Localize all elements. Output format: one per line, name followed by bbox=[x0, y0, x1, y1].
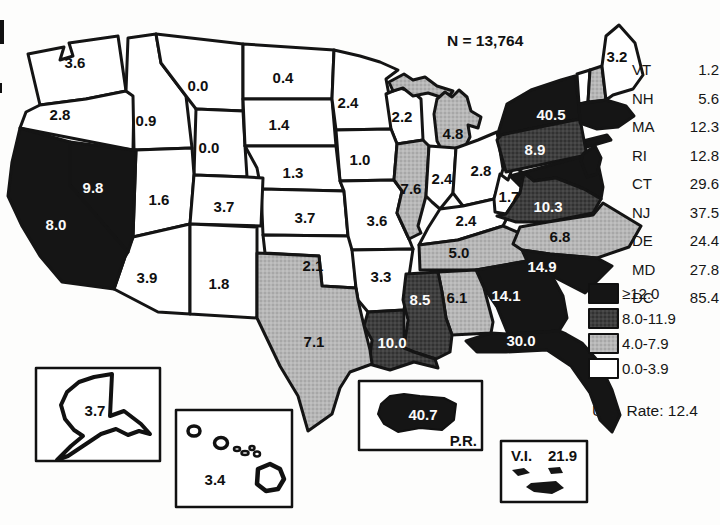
legend-swatch-light bbox=[589, 334, 618, 353]
puerto-rico-inset: 40.7 P.R. bbox=[359, 381, 482, 450]
value-label-nd: 0.4 bbox=[273, 69, 295, 86]
value-label-mt: 0.0 bbox=[188, 77, 209, 94]
alaska-inset: 3.7 bbox=[36, 368, 160, 461]
value-label-ia: 1.0 bbox=[350, 151, 371, 168]
value-label-id: 0.9 bbox=[136, 112, 157, 129]
ne-list-value: 12.3 bbox=[690, 118, 719, 135]
sample-size-label: N = 13,764 bbox=[447, 32, 524, 49]
ne-list-code: VT bbox=[632, 61, 651, 78]
ne-list-value: 85.4 bbox=[690, 289, 719, 306]
ne-list-code: CT bbox=[632, 175, 652, 192]
ne-list-value: 12.8 bbox=[690, 147, 719, 164]
value-label-ks: 3.7 bbox=[295, 209, 316, 226]
value-label-tx: 7.1 bbox=[304, 333, 325, 350]
legend-swatch-white bbox=[589, 359, 618, 378]
value-label-ne: 1.3 bbox=[283, 164, 304, 181]
value-label-co: 3.7 bbox=[214, 198, 235, 215]
value-label-mo: 3.6 bbox=[367, 212, 388, 229]
value-label-ky: 2.4 bbox=[456, 212, 478, 229]
legend-swatch-dark bbox=[589, 309, 618, 328]
value-label-sc: 14.9 bbox=[527, 258, 556, 275]
value-label-pa: 8.9 bbox=[525, 141, 546, 158]
puerto-rico-tag: P.R. bbox=[450, 432, 477, 449]
value-label-oh: 2.8 bbox=[471, 162, 492, 179]
value-label-wi: 2.2 bbox=[392, 108, 413, 125]
value-label-wy: 0.0 bbox=[199, 139, 220, 156]
value-label-nc: 6.8 bbox=[550, 228, 571, 245]
value-label-ak: 3.7 bbox=[85, 402, 106, 419]
value-label-mi: 4.8 bbox=[443, 125, 464, 142]
value-label-sd: 1.4 bbox=[269, 116, 291, 133]
ne-list-value: 27.8 bbox=[690, 261, 719, 278]
state-sd bbox=[243, 99, 336, 146]
value-label-tn: 5.0 bbox=[449, 244, 470, 261]
ne-list-value: 1.2 bbox=[698, 61, 719, 78]
value-label-al: 6.1 bbox=[447, 289, 468, 306]
ne-list-code: MD bbox=[632, 261, 655, 278]
legend-swatch-black bbox=[589, 284, 618, 303]
legend-label: 8.0-11.9 bbox=[622, 310, 676, 327]
virgin-islands-tag: V.I. bbox=[511, 447, 532, 464]
ne-list-code: DE bbox=[632, 232, 653, 249]
value-label-hi: 3.4 bbox=[205, 471, 227, 488]
legend-label: 4.0-7.9 bbox=[622, 335, 669, 352]
value-label-or: 2.8 bbox=[50, 106, 71, 123]
value-label-az: 3.9 bbox=[137, 269, 158, 286]
us-rate-label: U.S. Rate: 12.4 bbox=[592, 402, 698, 419]
value-label-ca: 8.0 bbox=[46, 216, 67, 233]
value-label-wv: 1.7 bbox=[499, 188, 520, 205]
northeast-state-list: VT 1.2 NH 5.6 MA 12.3 RI 12.8 CT 29.6 NJ… bbox=[632, 61, 719, 306]
value-label-in: 2.4 bbox=[432, 170, 454, 187]
ne-list-code: MA bbox=[632, 118, 655, 135]
value-label-nm: 1.8 bbox=[209, 275, 230, 292]
value-label-vi: 21.9 bbox=[548, 447, 577, 464]
state-nm bbox=[190, 224, 257, 318]
value-label-va: 10.3 bbox=[533, 198, 562, 215]
ne-list-code: NH bbox=[632, 90, 654, 107]
value-label-ar: 3.3 bbox=[371, 268, 392, 285]
ne-list-value: 5.6 bbox=[698, 90, 719, 107]
value-label-ok: 2.1 bbox=[303, 257, 324, 274]
state-ma-ri-ct-group bbox=[579, 100, 634, 129]
value-label-fl: 30.0 bbox=[506, 332, 535, 349]
legend-label: 0.0-3.9 bbox=[622, 360, 669, 377]
hawaii-inset: 3.4 bbox=[176, 410, 292, 507]
value-label-nv: 9.8 bbox=[83, 179, 104, 196]
value-label-mn: 2.4 bbox=[338, 94, 360, 111]
ne-list-value: 24.4 bbox=[690, 232, 719, 249]
ne-list-value: 37.5 bbox=[690, 204, 719, 221]
value-label-ny: 40.5 bbox=[536, 106, 565, 123]
value-label-ga: 14.1 bbox=[491, 287, 520, 304]
state-ny-long-island bbox=[583, 135, 611, 147]
choropleth-map: 3.6 2.8 0.9 0.0 0.0 9.8 8.0 1.6 3.7 3.9 … bbox=[0, 0, 720, 525]
legend-label: ≥12.0 bbox=[622, 285, 659, 302]
figure-canvas: 3.6 2.8 0.9 0.0 0.0 9.8 8.0 1.6 3.7 3.9 … bbox=[0, 0, 720, 525]
legend: ≥12.0 8.0-11.9 4.0-7.9 0.0-3.9 bbox=[589, 284, 676, 378]
virgin-islands-inset: V.I. 21.9 bbox=[501, 441, 587, 502]
value-label-wa: 3.6 bbox=[65, 54, 86, 71]
ne-list-code: NJ bbox=[632, 204, 650, 221]
value-label-la: 10.0 bbox=[377, 334, 406, 351]
scan-artifact bbox=[0, 20, 4, 44]
ne-list-code: RI bbox=[632, 147, 647, 164]
value-label-ms: 8.5 bbox=[410, 291, 431, 308]
value-label-il: 7.6 bbox=[401, 180, 422, 197]
value-label-me: 3.2 bbox=[607, 48, 628, 65]
value-label-pr: 40.7 bbox=[408, 406, 437, 423]
ne-list-value: 29.6 bbox=[690, 175, 719, 192]
scan-artifact bbox=[0, 83, 2, 93]
value-label-ut: 1.6 bbox=[149, 191, 170, 208]
